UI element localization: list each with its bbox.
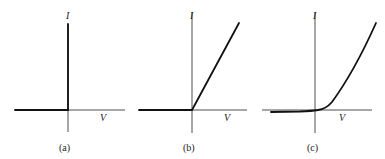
panel-c: I V (c)	[262, 10, 376, 154]
iv-characteristics-figure: I V (a) I V (b) I V (c)	[0, 0, 385, 159]
caption-c: (c)	[307, 142, 318, 154]
caption-b: (b)	[183, 142, 195, 154]
v-label-b: V	[224, 112, 232, 123]
curve-a	[15, 24, 68, 110]
i-label-a: I	[65, 10, 70, 21]
v-label-c: V	[339, 112, 347, 123]
caption-a: (a)	[59, 142, 70, 154]
curve-b	[139, 23, 239, 110]
curve-c	[271, 23, 376, 112]
i-label-b: I	[189, 10, 194, 21]
panel-a: I V (a)	[15, 10, 125, 154]
panel-b: I V (b)	[139, 10, 247, 154]
v-label-a: V	[100, 112, 108, 123]
i-label-c: I	[312, 10, 317, 21]
